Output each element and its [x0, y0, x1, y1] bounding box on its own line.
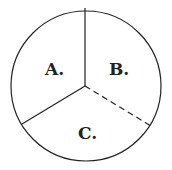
sector-label-a: A.: [44, 59, 64, 79]
divided-circle-diagram: A. B. C.: [0, 0, 172, 170]
divider-lower-left: [22, 86, 85, 124]
sector-label-c: C.: [78, 123, 97, 143]
sector-label-b: B.: [109, 59, 129, 79]
divider-lower-right-dashed: [85, 86, 151, 126]
